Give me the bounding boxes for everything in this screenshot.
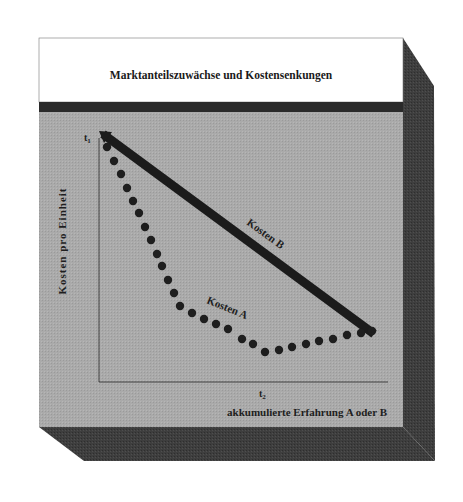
chart-box-illustration: Marktanteilszuwächse und Kostensenkungen… [0,0,463,502]
box-bottom-face [39,427,435,461]
chart-title: Marktanteilszuwächse und Kostensenkungen [110,69,333,82]
y-axis-label: Kosten pro Einheit [56,187,68,294]
x-axis-label: akkumulierte Erfahrung A oder B [227,406,388,418]
box-side-face [403,38,435,461]
chart-face [39,112,403,427]
header-band [39,102,403,112]
